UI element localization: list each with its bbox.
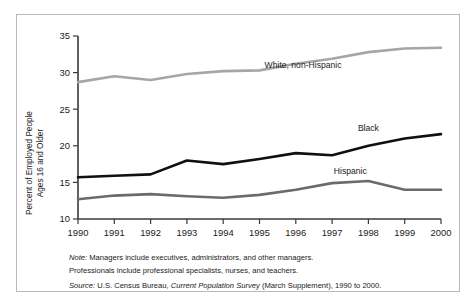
source-text-post: (March Supplement), 1990 to 2000.	[260, 281, 382, 290]
chart-series-lines	[78, 48, 441, 200]
source-line: Source: U.S. Census Bureau, Current Popu…	[69, 280, 449, 293]
x-tick-label: 1999	[394, 227, 415, 238]
series-line	[78, 48, 441, 82]
y-axis-title: Percent of Employed People Ages 16 and O…	[25, 111, 45, 215]
x-tick-label: 1995	[249, 227, 270, 238]
chart-figure-frame: Percent of Employed People Ages 16 and O…	[16, 14, 460, 292]
x-tick-label: 1993	[176, 227, 197, 238]
note-line-2: Professionals include professional speci…	[69, 265, 449, 278]
x-tick-label: 2000	[431, 227, 452, 238]
y-axis-title-line1: Percent of Employed People	[25, 111, 34, 215]
y-tick-label: 20	[60, 140, 70, 151]
y-axis-title-line2: Ages 16 and Older	[36, 129, 45, 198]
series-line	[78, 134, 441, 177]
chart-notes-block: Note: Managers include executives, admin…	[69, 252, 449, 293]
x-tick-label: 1991	[104, 227, 125, 238]
x-tick-label: 1997	[322, 227, 343, 238]
note-label: Note:	[69, 253, 87, 262]
x-tick-label: 1996	[285, 227, 306, 238]
series-label: White, non-Hispanic	[265, 60, 343, 70]
y-tick-label: 10	[60, 213, 70, 224]
note-text-1: Managers include executives, administrat…	[87, 253, 313, 262]
chart-axes	[78, 36, 441, 219]
y-tick-label: 35	[60, 30, 70, 41]
x-tick-label: 1992	[140, 227, 161, 238]
x-tick-label: 1998	[358, 227, 379, 238]
source-text-pre: U.S. Census Bureau,	[95, 281, 171, 290]
source-publication: Current Population Survey	[171, 281, 260, 290]
x-axis-ticks: 1990199119921993199419951996199719981999…	[68, 219, 452, 238]
y-tick-label: 30	[60, 67, 70, 78]
x-tick-label: 1994	[213, 227, 234, 238]
series-label: Hispanic	[334, 166, 368, 176]
chart-series-labels: White, non-HispanicBlackHispanic	[265, 60, 380, 176]
series-label: Black	[358, 123, 380, 133]
note-line-1: Note: Managers include executives, admin…	[69, 252, 449, 265]
y-axis-ticks: 101520253035	[60, 30, 78, 224]
y-tick-label: 15	[60, 177, 70, 188]
y-tick-label: 25	[60, 104, 70, 115]
series-line	[78, 181, 441, 199]
source-label: Source:	[69, 281, 95, 290]
x-tick-label: 1990	[68, 227, 89, 238]
